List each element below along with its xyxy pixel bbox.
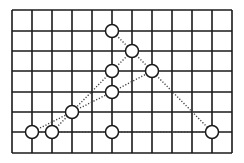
- dotted-edge: [52, 71, 112, 132]
- dotted-connections: [32, 31, 212, 132]
- circle-node: [106, 86, 119, 99]
- circle-node: [146, 65, 159, 78]
- circle-node: [106, 25, 119, 38]
- circle-node: [106, 65, 119, 78]
- circle-node: [46, 126, 59, 139]
- dotted-edge: [152, 71, 212, 132]
- circle-node: [126, 45, 139, 58]
- circle-node: [26, 126, 39, 139]
- circle-node: [206, 126, 219, 139]
- circle-node: [66, 106, 79, 119]
- grid-diagram: [0, 0, 244, 163]
- circle-node: [106, 126, 119, 139]
